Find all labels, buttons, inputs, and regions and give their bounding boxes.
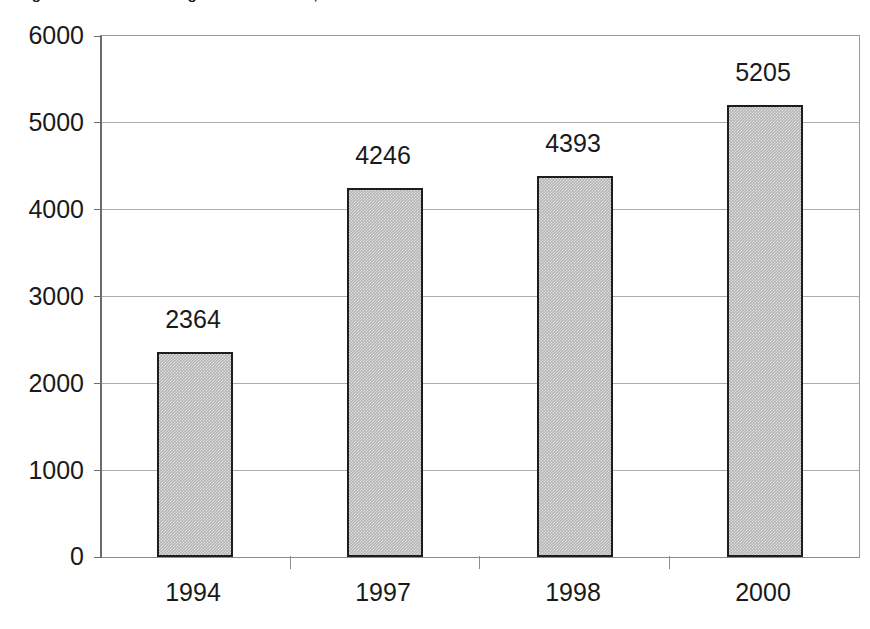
bar-value-label-1997: 4246 <box>355 141 411 170</box>
y-tick-mark-2000 <box>94 383 102 384</box>
x-tick-label-2000: 2000 <box>735 578 791 607</box>
y-tick-label-0: 0 <box>70 542 84 571</box>
bar-value-label-2000: 5205 <box>735 58 791 87</box>
plot-area <box>100 35 860 558</box>
y-tick-mark-5000 <box>94 122 102 123</box>
y-tick-mark-0 <box>94 557 102 558</box>
y-tick-mark-1000 <box>94 470 102 471</box>
x-tick-mark-3 <box>669 556 670 569</box>
bar-chart-figure: Figure 1. Number of Registered Vehicles,… <box>0 0 870 629</box>
y-tick-label-5000: 5000 <box>28 108 84 137</box>
bar-2000[interactable] <box>727 105 803 557</box>
bar-1994[interactable] <box>157 352 233 557</box>
bar-value-label-1998: 4393 <box>545 129 601 158</box>
x-tick-mark-1 <box>290 556 291 569</box>
y-tick-mark-6000 <box>94 36 102 37</box>
bar-value-label-1994: 2364 <box>165 305 221 334</box>
y-tick-label-3000: 3000 <box>28 282 84 311</box>
y-tick-label-2000: 2000 <box>28 369 84 398</box>
chart-title-clipped: Figure 1. Number of Registered Vehicles,… <box>0 0 870 7</box>
y-tick-label-6000: 6000 <box>28 21 84 50</box>
y-axis-tick-labels: 6000 5000 4000 3000 2000 1000 0 <box>0 0 100 629</box>
y-tick-mark-3000 <box>94 296 102 297</box>
y-tick-label-4000: 4000 <box>28 195 84 224</box>
x-tick-label-1998: 1998 <box>545 578 601 607</box>
x-tick-mark-2 <box>479 556 480 569</box>
x-tick-label-1997: 1997 <box>355 578 411 607</box>
y-tick-mark-4000 <box>94 209 102 210</box>
x-tick-label-1994: 1994 <box>165 578 221 607</box>
bar-1997[interactable] <box>347 188 423 557</box>
bar-1998[interactable] <box>537 176 613 557</box>
y-tick-label-1000: 1000 <box>28 456 84 485</box>
